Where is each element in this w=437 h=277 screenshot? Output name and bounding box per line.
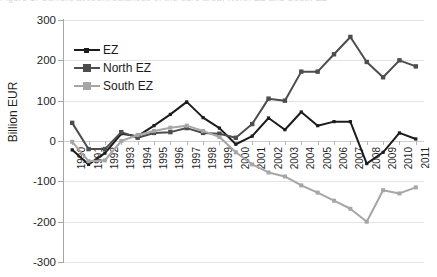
data-point [381,188,385,192]
data-point [103,152,106,155]
legend-swatch-icon [74,81,100,91]
data-point [251,135,254,138]
data-point [299,183,303,187]
y-tick-0 [58,141,64,142]
y-tick-100 [58,101,64,102]
data-point [103,158,107,162]
data-point [332,199,336,203]
data-point [414,185,418,189]
data-point [414,64,418,68]
data-point [168,126,172,130]
data-point [103,147,107,151]
y-tick-200 [58,60,64,61]
legend-swatch-icon [74,45,100,55]
data-point [201,116,204,119]
data-point [332,52,336,56]
data-point [71,148,74,151]
legend-label: EZ [103,43,118,57]
data-point [348,207,352,211]
data-point [234,136,238,140]
data-point [316,124,319,127]
data-point [332,120,335,123]
data-point [234,143,237,146]
data-point [70,121,74,125]
data-point [152,124,155,127]
legend-label: South EZ [103,79,153,93]
legend-item-ez: EZ [74,41,194,59]
data-point [70,140,74,144]
data-point [348,35,352,39]
y-tick-300 [58,20,64,21]
data-point [86,147,90,151]
legend-item-north-ez: North EZ [74,59,194,77]
data-point [250,122,254,126]
data-series-layer [0,0,437,277]
y-tick--100 [58,181,64,182]
series-south-ez [70,124,418,224]
chart-container: Figure 1. Current account balances of th… [0,0,437,277]
data-point [365,162,368,165]
data-point [152,129,156,133]
legend-item-south-ez: South EZ [74,77,194,95]
chart-legend: EZNorth EZSouth EZ [74,41,194,95]
data-point [87,159,91,163]
data-point [267,116,270,119]
data-point [267,170,271,174]
data-point [87,163,90,166]
data-point [119,130,123,134]
data-point [185,124,189,128]
data-point [381,75,385,79]
data-point [283,98,287,102]
data-point [266,96,270,100]
data-point [349,120,352,123]
data-point [283,174,287,178]
data-point [119,139,123,143]
data-point [315,69,319,73]
data-point [365,220,369,224]
data-point [234,150,238,154]
legend-label: North EZ [103,61,151,75]
data-point [316,191,320,195]
data-point [217,135,221,139]
data-point [397,191,401,195]
data-point [169,113,172,116]
data-point [397,58,401,62]
data-point [218,126,221,129]
data-point [168,130,172,134]
legend-swatch-icon [74,63,100,73]
y-tick--300 [58,262,64,263]
data-point [300,110,303,113]
data-point [136,133,140,137]
data-point [365,60,369,64]
data-point [381,151,384,154]
y-tick--200 [58,222,64,223]
data-point [299,69,303,73]
data-point [414,137,417,140]
data-point [185,100,188,103]
data-point [398,131,401,134]
data-point [283,128,286,131]
data-point [201,129,205,133]
data-point [250,162,254,166]
